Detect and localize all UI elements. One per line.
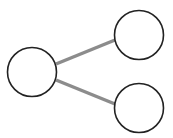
node-root xyxy=(8,48,57,97)
node-child-top xyxy=(115,11,164,60)
tree-diagram xyxy=(0,0,173,138)
node-child-bottom xyxy=(115,84,164,133)
